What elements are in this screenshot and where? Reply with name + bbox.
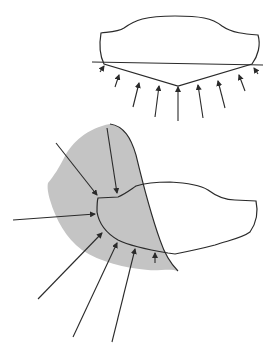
top-arrows: [100, 66, 258, 121]
arrow-icon: [38, 233, 102, 299]
top-hull-outline: [100, 16, 259, 86]
arrow-icon: [155, 86, 159, 117]
arrow-icon: [218, 81, 225, 108]
arrow-icon: [239, 75, 245, 91]
diagram-figure: [0, 0, 274, 351]
arrow-icon: [100, 66, 104, 72]
arrow-icon: [254, 68, 258, 74]
arrow-icon: [133, 83, 139, 107]
arrow-icon: [198, 85, 203, 118]
arrow-icon: [115, 75, 119, 87]
top-reference-line: [92, 62, 263, 65]
top-panel: [92, 16, 263, 121]
bottom-panel: [13, 124, 257, 342]
diagram-canvas: [0, 0, 274, 351]
